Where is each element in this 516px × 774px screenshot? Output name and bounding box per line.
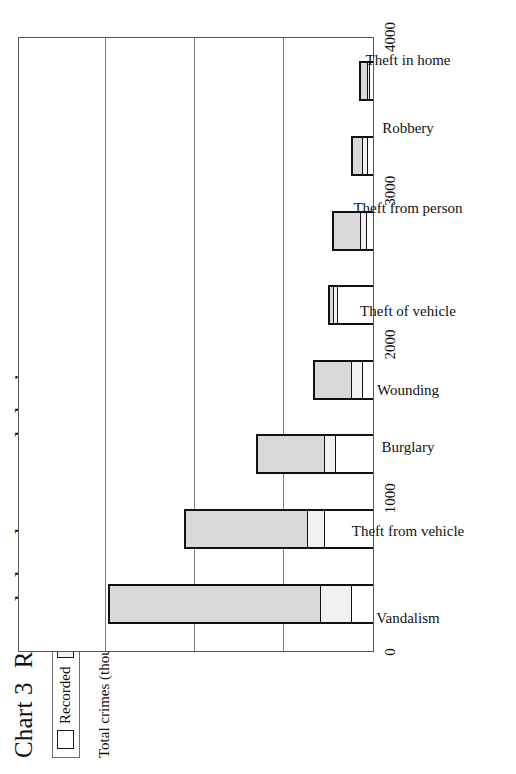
bar-slot [19,193,373,268]
bar-segment-unreported [110,586,320,622]
bar-slot [19,119,373,194]
bar-segment-unrecorded [307,511,324,547]
y-tick-label-4000: 4000 [382,22,399,52]
bar-segment-unreported [258,436,324,472]
x-label-wrap: Theft in home [404,9,504,94]
bar-segment-unreported [186,511,307,547]
bar-vandalism[interactable] [108,584,373,624]
legend-item-recorded: Recorded [57,667,74,749]
x-axis-label-wounding: Wounding [377,382,439,399]
bar-theft-from-vehicle[interactable] [184,509,373,549]
bar-segment-unrecorded [320,586,351,622]
y-tick-label-2000: 2000 [382,330,399,360]
bar-segment-unreported [334,213,360,249]
x-axis-label-burglary: Burglary [381,440,434,457]
bar-segment-recorded [335,436,373,472]
x-label-wrap: Vandalism [404,579,504,642]
x-axis-labels: VandalismTheft from vehicleBurglaryWound… [404,37,504,652]
x-axis-label-vandalism: Vandalism [376,610,439,627]
plot-area [18,37,374,652]
bar-segment-unrecorded [324,436,335,472]
bar-wounding[interactable] [313,360,373,400]
x-label-wrap: Theft from person [404,146,504,255]
legend-label-recorded: Recorded [57,667,74,724]
bar-slot [19,566,373,641]
bar-slot [19,417,373,492]
bar-robbery[interactable] [351,136,373,176]
x-label-wrap: Theft from vehicle [404,466,504,578]
bar-slot [19,44,373,119]
bar-segment-recorded [351,586,373,622]
bar-burglary[interactable] [256,434,373,474]
bar-segment-recorded [362,362,373,398]
bar-segment-recorded [369,63,373,99]
y-tick-label-1000: 1000 [382,483,399,513]
x-label-wrap: Robbery [404,94,504,146]
bar-group [19,38,373,651]
bar-segment-recorded [366,213,373,249]
y-tick-label-0: 0 [382,648,399,656]
x-axis-label-theft-of-vehicle: Theft of vehicle [360,303,456,320]
bar-slot [19,268,373,343]
x-axis-label-theft-from-vehicle: Theft from vehicle [352,522,464,539]
x-label-wrap: Burglary [404,413,504,466]
legend-swatch-recorded [57,730,74,749]
bar-segment-recorded [367,138,373,174]
bar-slot [19,343,373,418]
x-label-wrap: Wounding [404,351,504,413]
chart-number: Chart 3 [10,682,37,758]
chart-figure: Chart 3Recorded and unrecorded crime Rec… [0,0,516,774]
bar-segment-unreported [315,362,351,398]
bar-segment-unrecorded [351,362,363,398]
bar-segment-unreported [353,138,362,174]
x-label-wrap: Theft of vehicle [404,255,504,351]
bar-slot [19,492,373,567]
x-axis-label-robbery: Robbery [382,120,434,137]
x-axis-label-theft-from-person: Theft from person [353,201,462,218]
x-axis-label-theft-in-home: Theft in home [366,52,451,69]
